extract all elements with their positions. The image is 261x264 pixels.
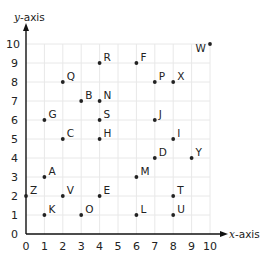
point-marker-icon [153,118,157,122]
y-tick-label: 0 [11,228,18,241]
x-tick-label: 2 [59,240,66,253]
y-tick-label: 10 [6,38,20,51]
scatter-plot: 012345678910012345678910 ABCDEFGHIJKLMNO… [0,0,261,264]
x-axis-label: x-axis [229,228,260,240]
x-tick-label: 4 [96,240,103,253]
y-tick-label: 5 [11,133,18,146]
point-marker-icon [98,118,102,122]
point-label: D [159,146,167,158]
point-marker-icon [24,194,28,198]
y-tick-label: 9 [11,57,18,70]
y-axis-arrow-icon [23,23,29,31]
point-marker-icon [98,99,102,103]
y-tick-label: 7 [11,95,18,108]
point-marker-icon [171,213,175,217]
y-tick-label: 6 [11,114,18,127]
point-label: C [67,127,74,139]
point-marker-icon [98,194,102,198]
point-marker-icon [79,99,83,103]
point-label: Y [195,146,203,158]
point-marker-icon [171,137,175,141]
x-tick-label: 7 [151,240,158,253]
point-label: M [140,165,149,177]
point-marker-icon [98,137,102,141]
point-label: V [67,184,75,196]
y-tick-label: 4 [11,152,18,165]
point-label: N [104,89,112,101]
point-label: R [104,51,111,63]
point-marker-icon [171,194,175,198]
point-label: Z [30,184,37,196]
point-marker-icon [135,61,139,65]
point-marker-icon [61,80,65,84]
y-tick-label: 2 [11,190,18,203]
x-tick-label: 3 [78,240,85,253]
x-tick-label: 0 [23,240,30,253]
y-axis-label: y-axis [13,11,45,23]
x-tick-label: 8 [170,240,177,253]
point-label: P [159,70,165,82]
point-label: H [104,127,112,139]
point-marker-icon [171,80,175,84]
x-axis-arrow-icon [220,231,228,237]
y-tick-label: 8 [11,76,18,89]
point-label: F [140,51,146,63]
point-label: L [140,203,146,215]
point-label: O [85,203,93,215]
point-marker-icon [208,42,212,46]
point-label: G [48,108,56,120]
point-label: U [177,203,185,215]
point-label: A [48,165,56,177]
point-marker-icon [43,175,47,179]
point-label: S [104,108,111,120]
x-tick-label: 1 [41,240,48,253]
point-label: Q [67,70,75,82]
point-label: E [104,184,111,196]
point-label: B [85,89,92,101]
data-point-w: W [196,42,212,54]
x-tick-label: 10 [203,240,217,253]
point-label: T [176,184,184,196]
point-label: K [48,203,56,215]
point-marker-icon [190,156,194,160]
point-marker-icon [61,137,65,141]
point-marker-icon [98,61,102,65]
point-label: X [177,70,184,82]
point-label: W [196,42,207,54]
y-tick-label: 3 [11,171,18,184]
x-tick-label: 5 [115,240,122,253]
point-marker-icon [43,213,47,217]
point-marker-icon [43,118,47,122]
x-tick-label: 9 [188,240,195,253]
point-marker-icon [153,80,157,84]
tick-labels: 012345678910012345678910 [6,38,217,253]
point-marker-icon [135,213,139,217]
point-marker-icon [135,175,139,179]
point-marker-icon [153,156,157,160]
point-marker-icon [61,194,65,198]
point-label: J [158,108,162,120]
point-marker-icon [79,213,83,217]
x-tick-label: 6 [133,240,140,253]
point-label: I [177,127,180,139]
y-tick-label: 1 [11,209,18,222]
